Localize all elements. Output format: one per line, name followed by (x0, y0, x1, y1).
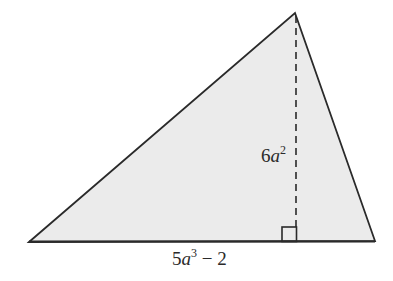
height-variable: a (271, 145, 281, 166)
height-exponent: 2 (280, 143, 286, 157)
base-constant: 2 (217, 248, 227, 269)
base-variable: a (182, 248, 192, 269)
base-operator: − (197, 248, 217, 269)
triangle-diagram (0, 0, 393, 281)
base-label: 5a3 − 2 (172, 249, 227, 268)
height-label: 6a2 (261, 146, 286, 165)
triangle-shape (29, 13, 375, 242)
height-coefficient: 6 (261, 145, 271, 166)
base-coefficient: 5 (172, 248, 182, 269)
